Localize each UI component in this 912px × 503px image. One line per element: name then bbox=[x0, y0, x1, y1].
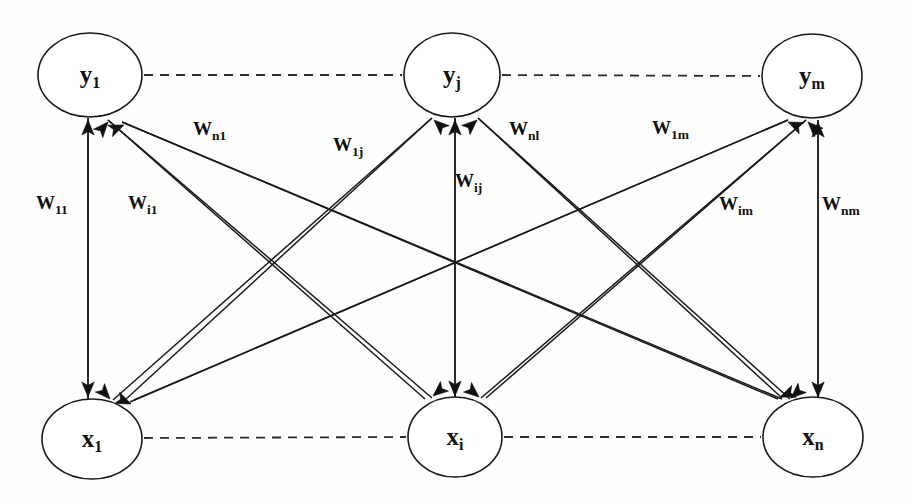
weight-label-w11: W11 bbox=[36, 192, 68, 216]
node-x1[interactable]: x1 bbox=[42, 399, 142, 479]
weight-label-wij: Wij bbox=[455, 170, 482, 194]
weight-label-w1m: W1m bbox=[652, 117, 690, 141]
weight-labels-group: W11Wi1Wn1W1jWijWnlW1mWimWnm bbox=[36, 117, 861, 217]
dashed-connector-x1-to-xi bbox=[144, 437, 406, 438]
dashed-connector-yj-to-ym bbox=[502, 75, 760, 76]
weight-label-wi1: Wi1 bbox=[128, 192, 158, 216]
arrowhead-head-ym-a bbox=[785, 116, 804, 133]
node-xn[interactable]: xn bbox=[763, 397, 863, 477]
connection-edges-group bbox=[88, 118, 818, 402]
connection-y1-xn bbox=[122, 122, 782, 399]
node-ym[interactable]: ym bbox=[762, 34, 862, 118]
connection-xi-y1 bbox=[108, 120, 425, 399]
connection-ym-xi bbox=[481, 120, 806, 398]
node-yj[interactable]: yj bbox=[404, 33, 500, 117]
node-xi[interactable]: xi bbox=[408, 397, 502, 477]
weight-label-wnm: Wnm bbox=[822, 193, 861, 217]
node-y1[interactable]: y1 bbox=[38, 33, 142, 117]
nodes-group: y1yjymx1xixn bbox=[38, 33, 863, 479]
weight-label-wn1: Wn1 bbox=[193, 118, 227, 142]
weight-label-wnj: Wnl bbox=[509, 118, 540, 142]
weight-label-w1j: W1j bbox=[333, 134, 363, 158]
arrowhead-head-yj-a bbox=[430, 115, 449, 134]
weight-label-wim: Wim bbox=[719, 193, 754, 217]
network-canvas: y1yjymx1xixn W11Wi1Wn1W1jWijWnlW1mWimWnm bbox=[0, 0, 912, 503]
network-diagram: y1yjymx1xixn W11Wi1Wn1W1jWijWnlW1mWimWnm bbox=[0, 0, 912, 503]
connection-yj-xn bbox=[478, 118, 790, 399]
